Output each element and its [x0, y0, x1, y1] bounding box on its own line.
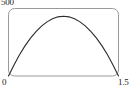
data-curve: [9, 16, 119, 76]
x-axis-max-label: 1.5: [118, 78, 129, 87]
x-axis-min-label: 0: [2, 78, 6, 87]
chart-figure: 500 0 1.5: [0, 0, 133, 91]
plot-canvas: [0, 0, 133, 91]
axes-frame: [9, 9, 119, 77]
y-axis-max-label: 500: [1, 0, 14, 7]
